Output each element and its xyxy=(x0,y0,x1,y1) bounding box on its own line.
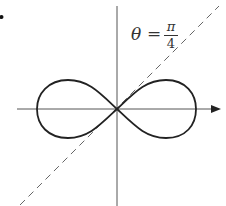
equals-sign: = xyxy=(147,23,161,43)
fraction-numerator: π xyxy=(164,20,178,34)
fraction-denominator: 4 xyxy=(164,37,178,51)
bullet-dot xyxy=(0,15,4,19)
lemniscate-figure xyxy=(0,0,226,206)
theta-symbol: θ xyxy=(131,24,141,44)
x-axis-arrow-icon xyxy=(211,105,221,113)
pi-over-4-fraction: π 4 xyxy=(164,20,178,51)
